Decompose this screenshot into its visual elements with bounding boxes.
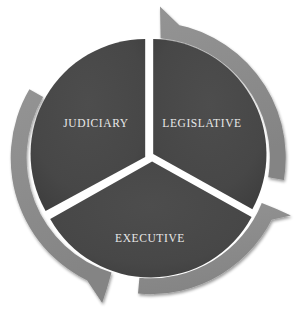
segment-label-executive: EXECUTIVE <box>115 232 185 244</box>
segment-label-judiciary: JUDICIARY <box>63 117 129 129</box>
cycle-diagram: LEGISLATIVE EXECUTIVE JUDICIARY <box>0 0 298 318</box>
segment-label-legislative: LEGISLATIVE <box>162 117 241 129</box>
cycle-diagram-canvas: LEGISLATIVE EXECUTIVE JUDICIARY <box>0 0 298 318</box>
